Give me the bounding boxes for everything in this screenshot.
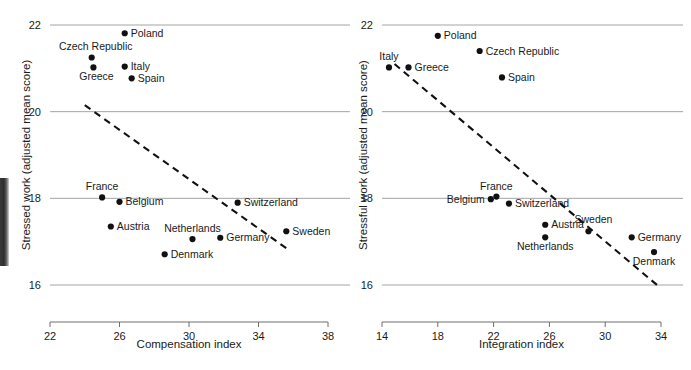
point-marker[interactable] [629, 234, 635, 240]
point-marker[interactable] [108, 223, 114, 229]
x-tick-label-22: 22 [44, 330, 56, 342]
point-marker[interactable] [386, 64, 392, 70]
data-point-belgium[interactable]: Belgium [447, 193, 494, 205]
right-plot-area: 22201816141822263034Integration indexStr… [345, 0, 691, 370]
point-label: Italy [131, 60, 151, 72]
point-label: Denmark [171, 248, 214, 260]
x-tick-label-34: 34 [252, 330, 264, 342]
y-tick-label-22: 22 [29, 19, 41, 31]
data-point-switzerland[interactable]: Switzerland [235, 196, 299, 208]
point-label: Austria [117, 220, 150, 232]
point-marker[interactable] [499, 74, 505, 80]
x-tick-label-38: 38 [322, 330, 334, 342]
point-label: Sweden [292, 225, 330, 237]
figure-canvas: 222018162226303438Compensation indexStre… [0, 0, 691, 370]
data-point-poland[interactable]: Poland [435, 29, 477, 41]
trendline [395, 64, 660, 287]
data-point-czech-republic[interactable]: Czech Republic [477, 45, 560, 57]
point-label: Belgium [447, 193, 485, 205]
data-point-poland[interactable]: Poland [122, 27, 164, 39]
point-marker[interactable] [129, 75, 135, 81]
data-point-denmark[interactable]: Denmark [633, 249, 676, 267]
point-label: Italy [379, 50, 399, 62]
point-label: Spain [508, 71, 535, 83]
data-point-sweden[interactable]: Sweden [574, 213, 612, 234]
y-axis-title: Stressful work (adjusted mean score) [357, 60, 369, 250]
point-marker[interactable] [488, 196, 494, 202]
y-tick-label-22: 22 [361, 19, 373, 31]
point-label: Belgium [126, 195, 164, 207]
x-axis-line [382, 322, 661, 327]
data-point-greece[interactable]: Greece [79, 64, 114, 82]
point-marker[interactable] [542, 222, 548, 228]
x-tick-label-14: 14 [376, 330, 388, 342]
point-marker[interactable] [89, 54, 95, 60]
point-label: Greece [415, 61, 450, 73]
data-point-italy[interactable]: Italy [379, 50, 399, 70]
point-marker[interactable] [477, 48, 483, 54]
left-plot-area: 222018162226303438Compensation indexStre… [0, 0, 345, 370]
point-label: Denmark [633, 255, 676, 267]
x-tick-label-26: 26 [113, 330, 125, 342]
point-label: Czech Republic [486, 45, 560, 57]
y-tick-label-16: 16 [29, 279, 41, 291]
x-axis-title: Compensation index [137, 338, 242, 350]
data-point-spain[interactable]: Spain [499, 71, 535, 83]
point-label: France [86, 180, 119, 192]
data-point-austria[interactable]: Austria [108, 220, 150, 232]
point-marker[interactable] [506, 200, 512, 206]
data-point-france[interactable]: France [86, 180, 119, 200]
left-edge-artifact [0, 178, 9, 266]
data-point-denmark[interactable]: Denmark [162, 248, 214, 260]
data-point-belgium[interactable]: Belgium [116, 195, 163, 207]
point-label: France [480, 180, 513, 192]
point-marker[interactable] [122, 64, 128, 70]
data-point-czech-republic[interactable]: Czech Republic [59, 40, 133, 61]
point-marker[interactable] [585, 228, 591, 234]
point-marker[interactable] [99, 194, 105, 200]
point-marker[interactable] [493, 194, 499, 200]
x-tick-label-30: 30 [599, 330, 611, 342]
scatter-panel-integration: 22201816141822263034Integration indexStr… [345, 0, 691, 370]
point-marker[interactable] [405, 64, 411, 70]
point-label: Netherlands [164, 222, 221, 234]
y-axis-title: Stressed work (adjusted mean score) [20, 60, 32, 251]
point-marker[interactable] [116, 199, 122, 205]
point-label: Switzerland [244, 196, 298, 208]
point-marker[interactable] [435, 33, 441, 39]
data-point-switzerland[interactable]: Switzerland [506, 197, 570, 209]
point-marker[interactable] [217, 235, 223, 241]
data-point-netherlands[interactable]: Netherlands [517, 234, 574, 252]
point-label: Czech Republic [59, 40, 133, 52]
data-point-germany[interactable]: Germany [629, 231, 682, 243]
x-tick-label-34: 34 [655, 330, 667, 342]
point-label: Germany [638, 231, 682, 243]
point-label: Germany [226, 231, 270, 243]
point-marker[interactable] [162, 251, 168, 257]
point-marker[interactable] [283, 228, 289, 234]
data-point-greece[interactable]: Greece [405, 61, 449, 73]
point-label: Spain [138, 72, 165, 84]
point-label: Poland [444, 29, 477, 41]
x-tick-label-18: 18 [432, 330, 444, 342]
point-label: Switzerland [515, 197, 569, 209]
data-point-spain[interactable]: Spain [129, 72, 165, 84]
point-marker[interactable] [235, 200, 241, 206]
point-label: Poland [131, 27, 164, 39]
data-point-sweden[interactable]: Sweden [283, 225, 330, 237]
point-marker[interactable] [189, 236, 195, 242]
point-label: Sweden [574, 213, 612, 225]
x-axis-title: Integration index [479, 338, 564, 350]
data-point-netherlands[interactable]: Netherlands [164, 222, 221, 242]
point-label: Greece [79, 70, 114, 82]
data-point-germany[interactable]: Germany [217, 231, 270, 243]
data-point-france[interactable]: France [480, 180, 513, 200]
data-point-italy[interactable]: Italy [122, 60, 151, 72]
y-tick-label-16: 16 [361, 279, 373, 291]
point-marker[interactable] [122, 30, 128, 36]
scatter-panel-compensation: 222018162226303438Compensation indexStre… [0, 0, 345, 370]
point-label: Netherlands [517, 240, 574, 252]
